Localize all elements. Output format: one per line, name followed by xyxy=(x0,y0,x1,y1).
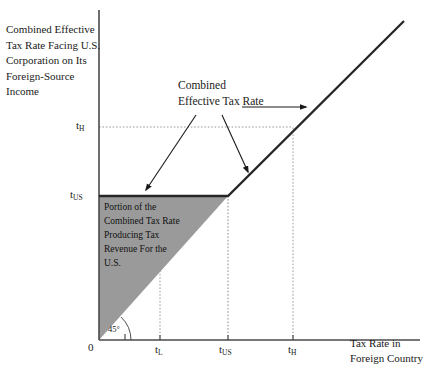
shaded-region-label: Portion of the Combined Tax Rate Produci… xyxy=(104,200,180,270)
x-tick-label-tl: tL xyxy=(155,343,163,356)
x-axis-title-line1: Tax Rate in xyxy=(350,337,401,349)
y-axis-caption: Combined Effective Tax Rate Facing U.S. … xyxy=(6,22,110,100)
angle-arc xyxy=(121,317,131,340)
annotation-arrow-to-diagonal xyxy=(222,115,248,172)
annotation-arrow-to-flat-segment xyxy=(146,115,196,190)
y-tick-label-tus: tUS xyxy=(70,188,83,201)
angle-label-45-degrees: 45° xyxy=(108,324,120,334)
origin-tick-label: 0 xyxy=(88,341,94,354)
x-axis-title: Tax Rate in Foreign Country xyxy=(350,336,434,366)
y-tick-th-subscript: H xyxy=(79,124,84,133)
tax-rate-chart-figure: Combined Effective Tax Rate Facing U.S. … xyxy=(0,0,434,366)
y-tick-label-th: tH xyxy=(76,119,84,132)
x-tick-label-th: tH xyxy=(288,343,296,356)
x-axis-title-line2: Foreign Country xyxy=(350,352,423,364)
x-tick-tl-subscript: L xyxy=(158,348,163,357)
x-tick-label-tus: tUS xyxy=(219,343,232,356)
x-tick-th-subscript: H xyxy=(291,348,296,357)
x-tick-tus-subscript: US xyxy=(222,348,232,357)
series-annotation-label: Combined Effective Tax Rate xyxy=(178,78,264,109)
y-tick-tus-subscript: US xyxy=(73,193,83,202)
